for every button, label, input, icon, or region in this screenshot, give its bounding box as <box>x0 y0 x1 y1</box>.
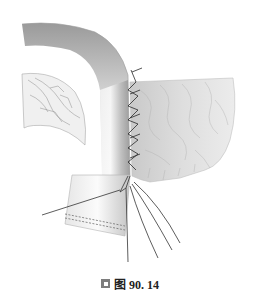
mesentery-fan <box>22 73 86 145</box>
medical-illustration <box>0 0 256 270</box>
tube-stump <box>65 175 130 236</box>
tissue-segment <box>130 78 235 182</box>
figure-marker-icon <box>101 279 110 288</box>
figure-caption-label: 图 90. 14 <box>114 275 159 293</box>
figure-caption: 图 90. 14 <box>101 276 159 291</box>
